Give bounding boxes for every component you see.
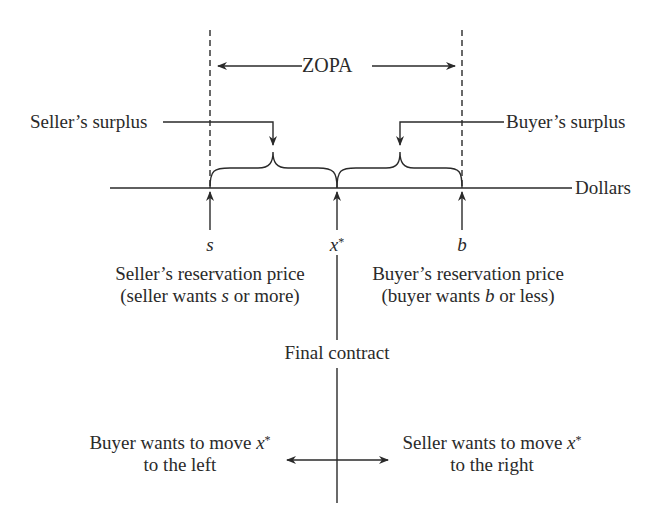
buyers-surplus-brace xyxy=(337,152,462,188)
sellers-surplus-brace xyxy=(210,152,337,188)
buyer-reservation-price-label: Buyer’s reservation price (buyer wants b… xyxy=(348,263,588,307)
sellers-surplus-leader xyxy=(163,122,273,145)
x-star-point-label: x* xyxy=(322,234,352,256)
buyers-surplus-label: Buyer’s surplus xyxy=(506,111,625,133)
buyer-move-left-label: Buyer wants to move x* to the left xyxy=(80,432,280,476)
sellers-surplus-label: Seller’s surplus xyxy=(30,111,147,133)
b-point-label: b xyxy=(452,234,472,256)
seller-move-right-label: Seller wants to move x* to the right xyxy=(392,432,592,476)
dollars-axis-label: Dollars xyxy=(575,177,631,199)
seller-reservation-price-label: Seller’s reservation price (seller wants… xyxy=(90,263,330,307)
final-contract-label: Final contract xyxy=(257,342,417,364)
buyers-surplus-leader xyxy=(400,122,504,145)
s-point-label: s xyxy=(200,234,220,256)
zopa-label: ZOPA xyxy=(302,54,372,76)
